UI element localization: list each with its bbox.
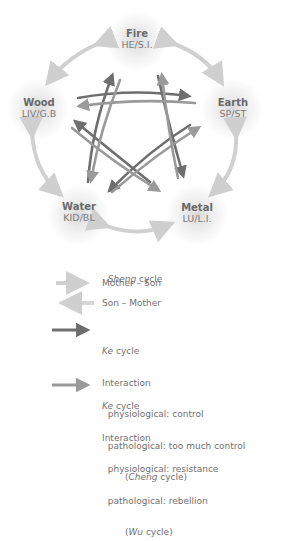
- legend-wu-line2: physiological: resistance: [102, 464, 218, 475]
- legend-wu-title-italic: Ke: [102, 401, 113, 411]
- legend-wu-line1: Interaction: [102, 433, 218, 444]
- node-earth: Earth SP/ST: [202, 97, 264, 119]
- legend-arrows: [52, 283, 94, 385]
- node-water-name: Water: [48, 201, 110, 212]
- legend-son-mother: Son – Mother: [102, 298, 161, 309]
- node-fire-name: Fire: [106, 28, 168, 39]
- legend-cheng-title-italic: Ke: [102, 346, 113, 356]
- node-earth-name: Earth: [202, 97, 264, 108]
- legend-cheng-title-rest: cycle: [113, 346, 139, 356]
- node-metal-name: Metal: [166, 202, 228, 213]
- legend-cheng-title: Ke cycle: [102, 346, 245, 357]
- legend-wu-title-rest: cycle: [113, 401, 139, 411]
- legend-wu-cycle-rest: cycle): [143, 527, 173, 537]
- legend-wu-cycle-open: (: [102, 527, 128, 537]
- node-wood-name: Wood: [8, 97, 70, 108]
- node-wood: Wood LIV/G.B: [8, 97, 70, 119]
- node-fire-organs: HE/S.I.: [106, 39, 168, 50]
- legend-wu-block: Ke cycle Interaction physiological: resi…: [102, 380, 218, 541]
- node-water: Water KID/BL: [48, 201, 110, 223]
- legend-mother-son: Mother – Son: [102, 278, 161, 289]
- legend-wu-line3: pathological: rebellion: [102, 496, 218, 507]
- node-water-organs: KID/BL: [48, 212, 110, 223]
- legend-wu-title: Ke cycle: [102, 401, 218, 412]
- node-fire: Fire HE/S.I.: [106, 28, 168, 50]
- node-earth-organs: SP/ST: [202, 108, 264, 119]
- legend-wu-cycle-italic: Wu: [128, 527, 143, 537]
- node-metal: Metal LU/L.I.: [166, 202, 228, 224]
- node-wood-organs: LIV/G.B: [8, 108, 70, 119]
- node-metal-organs: LU/L.I.: [166, 213, 228, 224]
- legend-wu-cycle: (Wu cycle): [102, 527, 218, 538]
